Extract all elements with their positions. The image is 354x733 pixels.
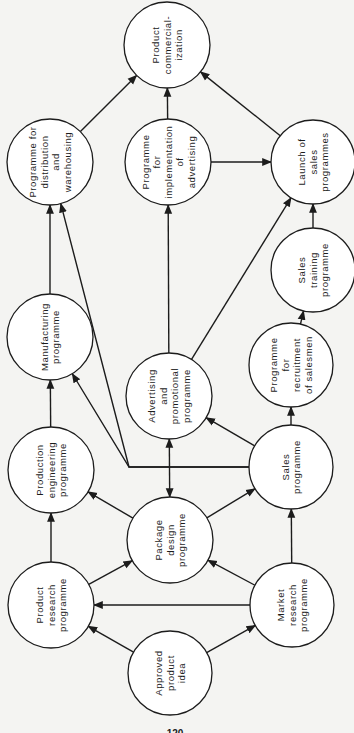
edge-adv_promo-to-impl_advertising	[168, 205, 169, 353]
edge-package_design-to-prod_engineering	[88, 492, 133, 518]
edge-package_design-to-sales	[207, 489, 255, 518]
node-label-line: Market	[275, 589, 286, 622]
node-recruitment: Programmeforrecruitmentof salesmen	[249, 323, 333, 407]
node-distribution: Programme fordistributionandwarehousing	[7, 119, 93, 205]
node-label-line: programme	[57, 443, 68, 497]
node-label-line: commercial-	[162, 16, 173, 74]
node-label-line: promotional	[169, 368, 180, 424]
product-development-network-diagram: Productcommercial-izationProgramme fordi…	[0, 0, 354, 733]
node-commercialization: Productcommercial-ization	[124, 2, 210, 88]
node-label-line: training	[308, 252, 319, 288]
edge-approved_idea-to-market_research	[207, 625, 256, 652]
node-label-line: distribution	[39, 135, 50, 188]
node-label-line: for	[280, 359, 291, 372]
node-label-line: Programme for	[27, 126, 38, 197]
node-prod-engineering: Productionengineeringprogramme	[8, 427, 94, 513]
node-label-line: Production	[34, 444, 45, 495]
node-label-line: Sales	[280, 454, 291, 481]
node-label-line: Programme	[268, 337, 279, 392]
node-product-research: Productresearchprogramme	[8, 562, 94, 648]
node-label-line: Package	[153, 519, 164, 560]
node-label-line: programme	[57, 578, 68, 632]
node-label-line: and	[158, 387, 169, 405]
edge-recruitment-to-sales_training	[300, 311, 303, 324]
node-label: Productionengineeringprogramme	[34, 442, 68, 498]
node-label-line: engineering	[46, 442, 57, 498]
node-adv-promo: Advertisingandpromotionalprogramme	[126, 353, 212, 439]
node-label-line: programme	[291, 440, 302, 494]
edge-approved_idea-to-product_research	[88, 626, 133, 652]
edge-launch_sales-to-commercialization	[201, 72, 281, 136]
node-sales: Salesprogramme	[249, 425, 333, 509]
edge-sales-to-adv_promo	[206, 418, 255, 446]
node-label-line: programme	[298, 578, 309, 632]
node-impl-advertising: Programmeforimplementationofadvertising	[125, 119, 211, 205]
node-label-line: of salesmen	[303, 336, 314, 394]
node-label-line: Programme	[140, 134, 151, 189]
edge-product_research-to-package_design	[89, 561, 133, 585]
node-label-line: ization	[173, 29, 184, 61]
node-label-line: and	[50, 153, 61, 171]
node-label-line: implementation	[163, 126, 174, 199]
node-label-line: design	[165, 524, 176, 556]
node-market-research: Marketresearchprogramme	[250, 563, 334, 647]
edge-market_research-to-package_design	[208, 560, 255, 585]
node-label-line: Manufacturing	[39, 303, 50, 371]
node-label-line: idea	[176, 663, 187, 683]
node-sales-training: Salestrainingprogramme	[271, 228, 354, 312]
node-label-line: product	[165, 655, 176, 691]
node-label-line: Product	[150, 27, 161, 64]
node-approved-idea: Approvedproductidea	[128, 631, 212, 715]
nodes-layer: Productcommercial-izationProgramme fordi…	[7, 2, 354, 715]
node-label-line: for	[151, 156, 162, 169]
node-label: Manufacturingprogramme	[39, 303, 62, 371]
node-label-line: Approved	[153, 650, 164, 695]
node-label-line: recruitment	[291, 338, 302, 392]
edge-distribution-to-commercialization	[80, 75, 136, 131]
node-label-line: programme	[176, 513, 187, 567]
node-label-line: programme	[50, 310, 61, 364]
node-label-line: Sales	[296, 257, 307, 284]
node-label-line: sales	[308, 149, 319, 174]
page-number: 120	[167, 728, 184, 733]
node-label: Programmeforrecruitmentof salesmen	[268, 336, 314, 394]
node-package-design: Packagedesignprogramme	[127, 497, 213, 583]
node-label-line: warehousing	[62, 132, 73, 193]
node-label-line: advertising	[186, 136, 197, 189]
node-label: Programmeforimplementationofadvertising	[140, 126, 197, 199]
node-label-line: Launch of	[296, 138, 307, 185]
node-label-line: programmes	[319, 132, 330, 191]
node-launch-sales: Launch ofsalesprogrammes	[271, 120, 354, 204]
node-label-line: of	[174, 157, 185, 166]
node-label-line: research	[46, 584, 57, 626]
node-label: Advertisingandpromotionalprogramme	[146, 368, 192, 424]
node-label-line: programme	[181, 369, 192, 423]
node-label-line: research	[287, 584, 298, 626]
node-manufacturing: Manufacturingprogramme	[7, 294, 93, 380]
node-label-line: programme	[319, 243, 330, 297]
node-label-line: Product	[34, 587, 45, 624]
node-label-line: Advertising	[146, 369, 157, 423]
